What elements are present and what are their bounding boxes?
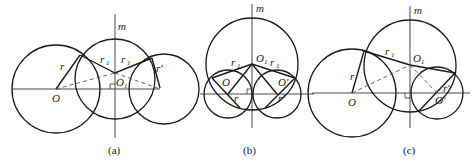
label-r1-right: r [270,56,275,68]
svg-text:1: 1 [264,58,268,66]
svg-text:1: 1 [106,59,110,67]
svg-text:1: 1 [127,59,131,67]
svg-text:1: 1 [124,82,128,90]
right-angle-mark [405,93,410,98]
dashed-O-O1 [352,65,410,93]
label-m: m [414,4,422,16]
label-r: r [60,60,65,72]
label-r: r [234,92,239,104]
label-O-prime: O' [278,76,289,88]
caption-c: (c) [403,144,416,157]
right-angle-mark [110,84,115,89]
svg-text:1: 1 [237,62,241,70]
label-m: m [256,2,264,14]
label-r1: r [385,45,390,57]
caption-a: (a) [108,144,121,157]
svg-text:1: 1 [421,58,425,66]
label-O: O [222,76,230,88]
label-m: m [118,20,126,32]
label-r: r [350,70,355,82]
label-r-prime: r' [156,62,163,74]
label-r-prime: r' [278,92,285,104]
label-r1-left: r [231,56,236,68]
radius-r1-pair [80,55,152,73]
panel-b: m O O 1 O' r r 1 r 1 r' (b) [200,2,314,157]
caption-b: (b) [243,144,256,157]
svg-text:1: 1 [391,51,395,59]
label-O1: O [116,76,124,88]
panel-c: m O O 1 O' r r 1 r' (c) [308,4,470,157]
geometry-figure: m O O 1 r r 1 r 1 r' (a) m O O 1 O' r r … [0,0,472,168]
label-r1-right: r [121,53,126,65]
label-O-prime: O' [435,94,446,106]
label-r1-left: r [100,53,105,65]
label-r-prime: r' [443,82,450,94]
label-O1: O [413,52,421,64]
label-O: O [348,96,356,108]
svg-text:1: 1 [276,62,280,70]
panel-a: m O O 1 r r 1 r 1 r' (a) [12,14,199,157]
label-O: O [52,92,60,104]
label-O1: O [256,52,264,64]
radius-r1-path [364,51,455,73]
